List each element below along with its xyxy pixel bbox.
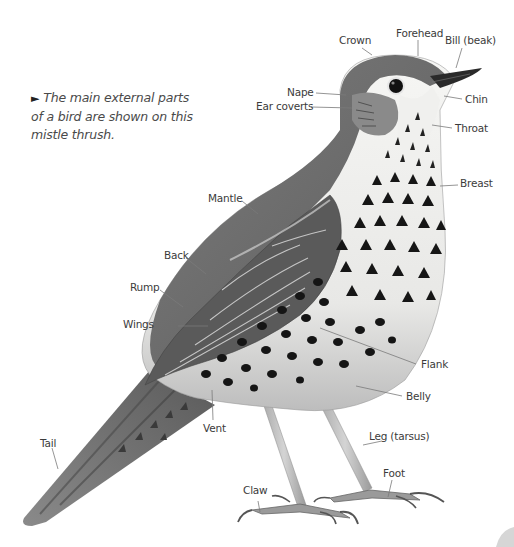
label-chin: Chin: [465, 93, 488, 105]
label-mantle: Mantle: [208, 192, 242, 204]
label-vent: Vent: [203, 422, 226, 434]
label-foot: Foot: [383, 467, 405, 479]
label-tail: Tail: [40, 437, 56, 449]
label-belly: Belly: [406, 390, 431, 402]
mistle-thrush-illustration: [0, 0, 514, 547]
label-back: Back: [164, 249, 189, 261]
label-breast: Breast: [460, 177, 493, 189]
page-curl: [496, 527, 514, 547]
label-flank: Flank: [421, 358, 448, 370]
label-ear-coverts: Ear coverts: [256, 100, 313, 112]
caption-text: The main external parts of a bird are sh…: [31, 90, 193, 142]
caption-marker-icon: ►: [31, 92, 39, 105]
label-throat: Throat: [455, 122, 488, 134]
label-bill: Bill (beak): [445, 34, 496, 46]
label-claw: Claw: [243, 484, 267, 496]
label-nape: Nape: [287, 86, 314, 98]
label-forehead: Forehead: [396, 27, 443, 39]
label-wings: Wings: [123, 318, 154, 330]
figure-caption: ►The main external parts of a bird are s…: [31, 89, 201, 144]
legs: [238, 400, 444, 524]
label-crown: Crown: [339, 34, 371, 46]
label-leg-tarsus: Leg (tarsus): [369, 430, 429, 442]
label-rump: Rump: [130, 281, 160, 293]
